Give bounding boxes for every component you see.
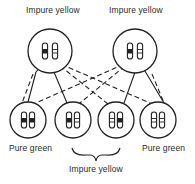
dominant-chromosome-icon — [42, 43, 47, 59]
offspring-cell-2 — [55, 102, 91, 138]
parent-right-label: Impure yellow — [109, 5, 163, 15]
offspring-cell-4 — [140, 102, 176, 138]
offspring-cell-1 — [10, 102, 46, 138]
children-middle-label: Impure yellow — [69, 164, 123, 174]
parent-right-cell — [113, 29, 157, 73]
recessive-chromosome-icon — [52, 43, 57, 59]
recessive-chromosome-icon — [137, 43, 142, 59]
child-right-label: Pure green — [142, 143, 185, 153]
grouping-brace — [72, 148, 120, 161]
dominant-chromosome-icon — [127, 43, 132, 59]
genetic-cross-diagram — [0, 0, 195, 184]
parent-left-cell — [28, 29, 72, 73]
parent-left-label: Impure yellow — [26, 5, 80, 15]
child-left-label: Pure green — [9, 143, 52, 153]
offspring-cell-3 — [98, 102, 134, 138]
